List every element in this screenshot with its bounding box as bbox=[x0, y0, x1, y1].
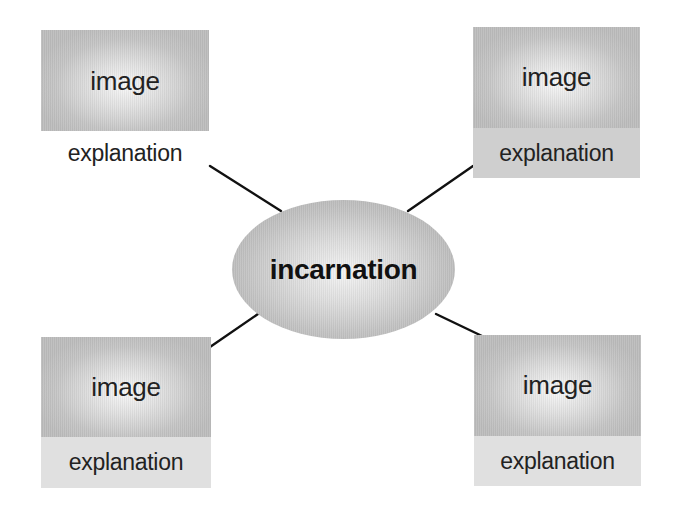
image-placeholder: image bbox=[41, 337, 211, 437]
explanation-label: explanation bbox=[41, 437, 211, 488]
node-bottom-left: image explanation bbox=[41, 337, 211, 488]
image-label: image bbox=[522, 62, 591, 93]
node-top-left: image explanation bbox=[41, 30, 209, 176]
explanation-text: explanation bbox=[68, 140, 182, 167]
image-placeholder: image bbox=[41, 30, 209, 131]
node-top-right: image explanation bbox=[473, 27, 640, 178]
node-bottom-right: image explanation bbox=[474, 335, 641, 486]
connector-bottom-right bbox=[436, 314, 482, 336]
center-node: incarnation bbox=[232, 200, 455, 339]
connector-top-left bbox=[210, 166, 281, 211]
explanation-label: explanation bbox=[474, 436, 641, 486]
explanation-label: explanation bbox=[473, 128, 640, 178]
explanation-text: explanation bbox=[499, 140, 613, 167]
image-label: image bbox=[90, 66, 159, 97]
explanation-text: explanation bbox=[500, 448, 614, 475]
connector-bottom-left bbox=[210, 314, 258, 347]
image-placeholder: image bbox=[474, 335, 641, 436]
explanation-text: explanation bbox=[69, 449, 183, 476]
center-label: incarnation bbox=[270, 254, 418, 286]
mind-map-diagram: image explanation image explanation imag… bbox=[0, 0, 673, 525]
image-label: image bbox=[523, 370, 592, 401]
image-placeholder: image bbox=[473, 27, 640, 128]
image-label: image bbox=[91, 372, 160, 403]
explanation-label: explanation bbox=[41, 131, 209, 176]
connector-top-right bbox=[408, 166, 473, 211]
